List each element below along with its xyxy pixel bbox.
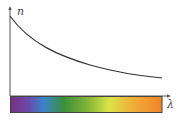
y-axis-label: n xyxy=(17,6,24,17)
dispersion-diagram xyxy=(0,0,182,126)
refractive-index-curve xyxy=(10,16,162,78)
x-axis-label: λ xyxy=(167,99,174,110)
visible-spectrum-bar xyxy=(11,97,163,113)
y-axis xyxy=(8,6,11,96)
y-axis-arrow-icon xyxy=(8,6,11,10)
